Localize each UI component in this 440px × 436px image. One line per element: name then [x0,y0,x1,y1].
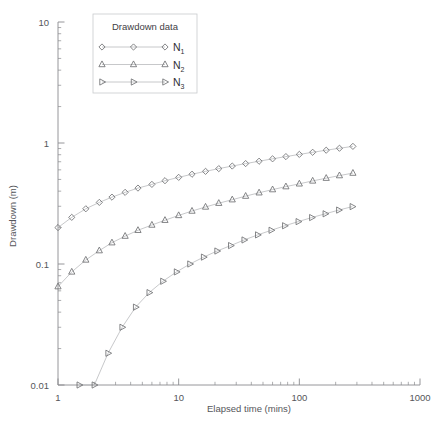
legend-label-subscript: 1 [181,48,185,55]
legend-label: N [173,59,181,71]
legend-label: N [173,76,181,88]
y-axis-tick-label: 0.1 [36,259,49,270]
y-axis-tick-label: 0.01 [31,380,50,391]
legend: Drawdown dataN1N2N3 [93,14,197,93]
legend-title: Drawdown data [112,21,179,32]
y-axis-tick-label: 1 [44,138,49,149]
y-axis-title: Drawdown (m) [7,185,18,247]
x-axis-tick-label: 100 [291,392,307,403]
x-axis-tick-label: 1 [55,392,60,403]
legend-label: N [173,41,181,53]
x-axis-tick-label: 10 [173,392,184,403]
x-axis-tick-label: 1000 [409,392,430,403]
drawdown-log-log-chart: 11010010000.010.1110 Drawdown dataN1N2N3… [0,0,440,436]
x-axis-title: Elapsed time (mins) [207,403,291,414]
chart-background [0,0,440,436]
legend-label-subscript: 2 [181,66,185,73]
legend-label-subscript: 3 [181,83,185,90]
y-axis-tick-label: 10 [38,17,49,28]
